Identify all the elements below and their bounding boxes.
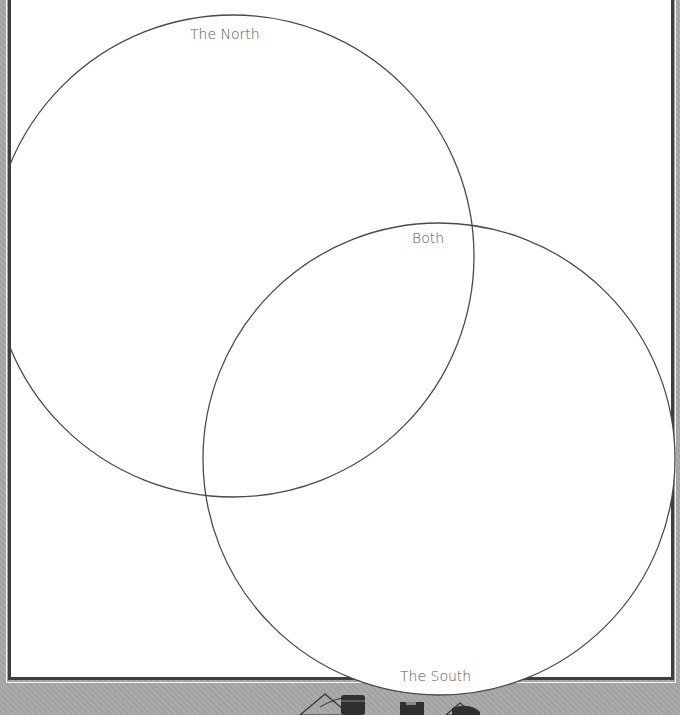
dark-shape-icon <box>452 706 480 715</box>
north-label: The North <box>190 26 260 42</box>
both-label: Both <box>412 230 444 246</box>
barrel-icon <box>341 695 365 715</box>
south-circle-fill <box>203 223 675 695</box>
bottom-decorations <box>300 694 480 715</box>
venn-diagram: The North Both The South <box>0 0 680 715</box>
south-label: The South <box>400 668 471 684</box>
